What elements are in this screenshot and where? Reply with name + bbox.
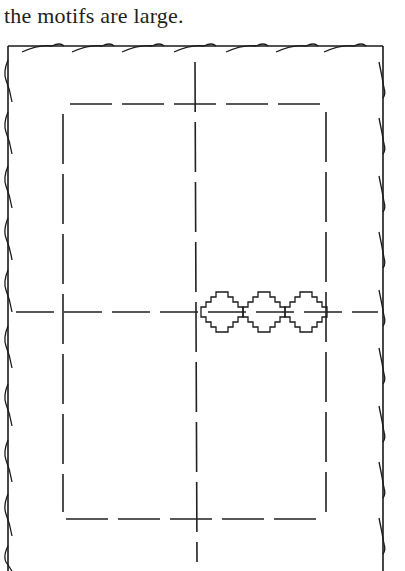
- centre-lines: [16, 62, 378, 562]
- overcast-stitches-right: [379, 62, 385, 554]
- fabric-diagram: [0, 0, 405, 571]
